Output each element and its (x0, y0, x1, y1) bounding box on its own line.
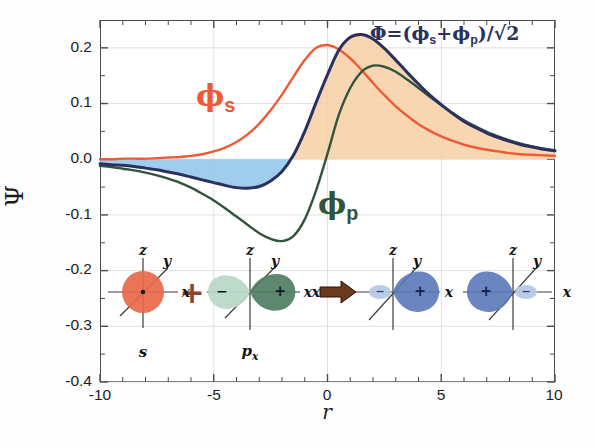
chart-svg (0, 0, 595, 448)
px-sign-positive: + (274, 283, 286, 299)
sp2-sign-negative: − (521, 285, 530, 298)
formula-mid: +ϕ (436, 22, 470, 44)
sp1-sign-negative: − (375, 285, 384, 298)
phi-p-subscript: p (346, 202, 358, 224)
sp1-axis-y: y (413, 253, 421, 269)
px-axis-z: z (246, 242, 254, 258)
p-subscript: x (252, 350, 258, 362)
figure-root: Ψ r 0.2 0.1 0.0 -0.1 -0.2 -0.3 -0.4 -10 … (0, 0, 595, 448)
arrow-operator-icon (320, 281, 356, 303)
sp1-sign-positive: + (414, 283, 426, 299)
sp1-axis-z: z (389, 242, 397, 258)
phi-s-subscript: s (224, 94, 235, 116)
p-symbol: p (242, 342, 253, 360)
sp-hybrid-forward (352, 258, 440, 330)
formula-sub-p: p (470, 33, 478, 47)
arrow-left-x-label: x (312, 284, 320, 300)
phi-s-symbol: ϕ (196, 78, 224, 113)
formula-suffix: )/√2 (478, 22, 520, 44)
sp2-sign-positive: + (480, 283, 492, 299)
s-orbital-label: s (139, 343, 147, 361)
phi-p-label: ϕp (318, 186, 358, 225)
sp2-axis-x: x (563, 284, 571, 300)
phi-s-label: ϕs (196, 78, 235, 117)
px-axis-y: y (271, 253, 279, 269)
sp2-axis-z: z (509, 242, 517, 258)
s-axis-x: x (182, 284, 190, 300)
s-axis-y: y (163, 253, 171, 269)
px-orbital-label: px (242, 342, 259, 361)
hybrid-formula-label: Φ=(ϕs+ϕp)/√2 (370, 22, 519, 47)
sp2-axis-y: y (533, 253, 541, 269)
phi-p-symbol: ϕ (318, 186, 346, 221)
formula-prefix: Φ=(ϕ (370, 22, 429, 44)
px-sign-negative: − (216, 283, 228, 299)
sp1-axis-x: x (445, 284, 453, 300)
s-axis-z: z (139, 242, 147, 258)
